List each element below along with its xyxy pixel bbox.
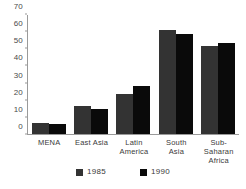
y-axis-tick-label: 30 (14, 72, 27, 80)
bar-group (116, 15, 150, 134)
bar-chart: 706050403020100 MENAEast AsiaLatinAmeric… (0, 0, 246, 189)
category-label-line: Asia (156, 147, 196, 156)
bar-group (201, 15, 235, 134)
legend-item[interactable]: 1985 (76, 168, 106, 176)
bar-group (74, 15, 108, 134)
bar-1985 (159, 30, 176, 134)
x-axis-category-label: LatinAmerica (114, 138, 154, 165)
y-axis-tick-mark (25, 31, 27, 32)
bar-1985 (116, 94, 133, 134)
x-axis-category-label: SouthAsia (156, 138, 196, 165)
chart-legend: 19851990 (0, 168, 246, 176)
bar-group (159, 15, 193, 134)
x-axis-category-label: Sub-SaharanAfrica (199, 138, 239, 165)
category-label-line: South (156, 138, 196, 147)
y-axis-tick-label: 70 (14, 3, 27, 11)
x-axis-category-labels: MENAEast AsiaLatinAmericaSouthAsiaSub-Sa… (28, 138, 240, 165)
x-axis-category-label: MENA (29, 138, 69, 165)
y-axis-tick-mark (25, 82, 27, 83)
y-axis-tick-label: 50 (14, 37, 27, 45)
legend-item[interactable]: 1990 (140, 168, 170, 176)
category-label-line: Saharan (199, 147, 239, 156)
bar-1990 (49, 124, 66, 134)
bar-groups (28, 15, 239, 134)
y-axis-tick-mark (25, 99, 27, 100)
legend-label: 1985 (87, 168, 106, 176)
x-axis-line (27, 134, 239, 135)
y-axis-tick-mark (25, 14, 27, 15)
y-axis-tick-label: 0 (18, 123, 27, 131)
bar-1990 (176, 34, 193, 134)
y-axis-tick-mark (25, 116, 27, 117)
y-axis-tick-label: 10 (14, 106, 27, 114)
x-axis-category-label: East Asia (72, 138, 112, 165)
category-label-line: Africa (199, 156, 239, 165)
y-axis-tick-mark (25, 65, 27, 66)
y-axis-tick-label: 20 (14, 89, 27, 97)
category-label-line: America (114, 147, 154, 156)
legend-swatch-icon (140, 169, 147, 176)
bar-1985 (32, 123, 49, 134)
bar-1990 (91, 109, 108, 135)
bar-group (32, 15, 66, 134)
y-axis-tick-label: 60 (14, 20, 27, 28)
legend-label: 1990 (151, 168, 170, 176)
plot-area: 706050403020100 (27, 15, 239, 135)
bar-1990 (218, 43, 235, 134)
category-label-line: Latin (114, 138, 154, 147)
category-label-line: Sub- (199, 138, 239, 147)
category-label-line: MENA (29, 138, 69, 147)
y-axis-tick-mark (25, 48, 27, 49)
legend-swatch-icon (76, 169, 83, 176)
bar-1985 (201, 46, 218, 134)
bar-1990 (133, 86, 150, 134)
bar-1985 (74, 106, 91, 134)
category-label-line: East Asia (72, 138, 112, 147)
y-axis-tick-label: 40 (14, 54, 27, 62)
y-axis-tick-mark (25, 134, 27, 135)
